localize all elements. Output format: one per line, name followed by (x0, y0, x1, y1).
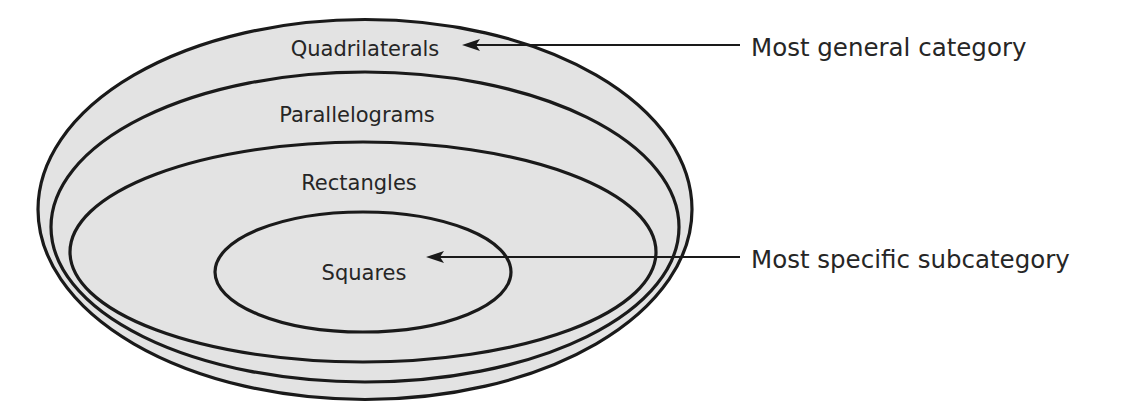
label-quadrilaterals: Quadrilaterals (291, 37, 440, 61)
label-rectangles: Rectangles (301, 171, 417, 195)
callout-most-general: Most general category (751, 33, 1026, 62)
diagram-canvas: Quadrilaterals Parallelograms Rectangles… (0, 0, 1121, 413)
label-parallelograms: Parallelograms (279, 103, 435, 127)
callout-most-specific: Most specific subcategory (751, 245, 1070, 274)
nested-sets-diagram: Quadrilaterals Parallelograms Rectangles… (0, 0, 1121, 413)
label-squares: Squares (322, 261, 407, 285)
